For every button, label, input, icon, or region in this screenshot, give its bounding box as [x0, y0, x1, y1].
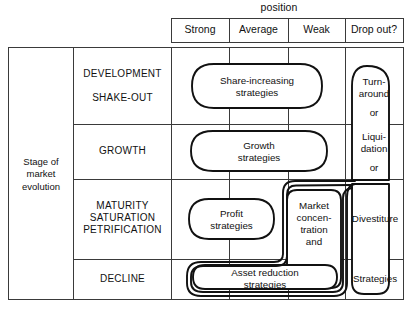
column-header-weak: Weak	[288, 23, 345, 35]
cell-turnaround: Turn- around	[352, 76, 396, 100]
column-header-average: Average	[229, 23, 288, 35]
cell-or-first: or	[352, 107, 396, 119]
strategy-matrix-figure: position Strong Average Weak Drop out? S…	[0, 0, 415, 314]
row-label-decline: DECLINE	[74, 273, 171, 285]
row-label-growth: GROWTH	[74, 145, 171, 157]
cell-market-concentration: Market concen- tration and	[289, 200, 339, 248]
cell-or-second: or	[352, 162, 396, 174]
row-label-maturity: MATURITY SATURATION PETRIFICATION	[74, 200, 171, 235]
row-label-development-shakeout: DEVELOPMENT SHAKE-OUT	[74, 68, 171, 103]
column-header-dropout: Drop out?	[345, 23, 403, 35]
cell-share-increasing-strategies: Share-increasing strategies	[203, 75, 311, 99]
position-axis-title: position	[224, 1, 334, 13]
stage-of-market-evolution-label: Stage of market evolution	[9, 156, 73, 193]
cell-liquidation: Liqui- dation	[352, 131, 396, 155]
cell-growth-strategies: Growth strategies	[212, 140, 306, 164]
cell-strategies: Strategies	[347, 273, 403, 285]
column-header-strong: Strong	[171, 23, 229, 35]
cell-profit-strategies: Profit strategies	[192, 208, 271, 232]
cell-asset-reduction-strategies: Asset reduction strategies	[194, 267, 336, 291]
cell-divestiture: Divestiture	[346, 213, 404, 225]
